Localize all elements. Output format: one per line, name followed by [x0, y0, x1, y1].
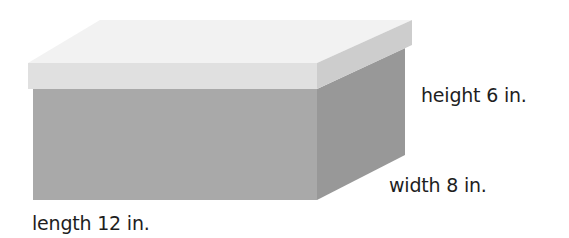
box-lid-front-face: [28, 63, 317, 89]
width-label: width 8 in.: [389, 176, 487, 195]
height-label: height 6 in.: [421, 86, 527, 105]
box-body-front-face: [33, 89, 317, 200]
box-diagram: [0, 0, 569, 238]
length-label: length 12 in.: [32, 214, 150, 233]
